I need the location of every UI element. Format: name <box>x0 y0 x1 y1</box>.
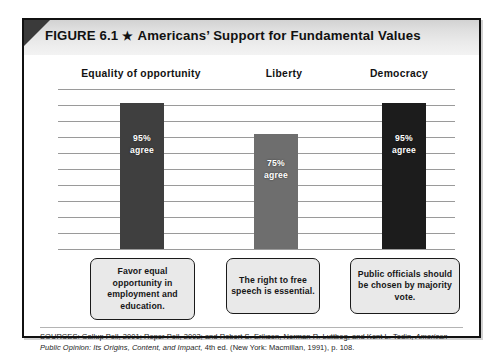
chart-area: Equality of opportunity Liberty Democrac… <box>24 55 479 336</box>
bar-value-label-equality: 95% agree <box>120 132 164 156</box>
bar-liberty: 75% agree <box>254 134 298 250</box>
figure-title-text: Americans’ Support for Fundamental Value… <box>137 28 420 43</box>
category-labels: Equality of opportunity Liberty Democrac… <box>24 68 479 84</box>
caption-box-liberty: The right to free speech is essential. <box>226 258 320 314</box>
bar-agree-equality: agree <box>120 144 164 156</box>
figure-header: FIGURE 6.1★Americans’ Support for Fundam… <box>24 20 479 56</box>
bar-value-label-democracy: 95% agree <box>382 132 426 156</box>
caption-box-equality: Favor equal opportunity in employment an… <box>90 258 195 320</box>
chart-baseline <box>58 249 455 250</box>
sources-line-prefix: SOURCES: Gallup Poll, 2001; Roper Poll, … <box>40 332 413 341</box>
bar-percent-equality: 95% <box>120 132 164 144</box>
chart-bars: 95% agree 75% agree 95% agree <box>24 89 479 249</box>
sources-line-suffix: 4th ed. (New York: Macmillan, 1991), p. … <box>203 343 355 352</box>
sources-divider <box>40 327 463 328</box>
bar-agree-democracy: agree <box>382 144 426 156</box>
page-title: FIGURE 6.1★Americans’ Support for Fundam… <box>45 28 421 43</box>
bar-democracy: 95% agree <box>382 103 426 249</box>
figure-root: FIGURE 6.1★Americans’ Support for Fundam… <box>0 0 503 355</box>
caption-boxes: Favor equal opportunity in employment an… <box>24 258 479 322</box>
bar-agree-liberty: agree <box>254 169 298 181</box>
figure-number: FIGURE 6.1 <box>45 28 118 43</box>
bar-equality: 95% agree <box>120 103 164 249</box>
caption-box-democracy: Public officials should be chosen by maj… <box>350 258 460 314</box>
bar-value-label-liberty: 75% agree <box>254 157 298 181</box>
bar-percent-liberty: 75% <box>254 157 298 169</box>
star-icon: ★ <box>118 29 137 43</box>
sources-note: SOURCES: Gallup Poll, 2001; Roper Poll, … <box>40 331 465 353</box>
category-label-democracy: Democracy <box>324 68 474 79</box>
bar-percent-democracy: 95% <box>382 132 426 144</box>
figure-frame: FIGURE 6.1★Americans’ Support for Fundam… <box>22 18 481 338</box>
